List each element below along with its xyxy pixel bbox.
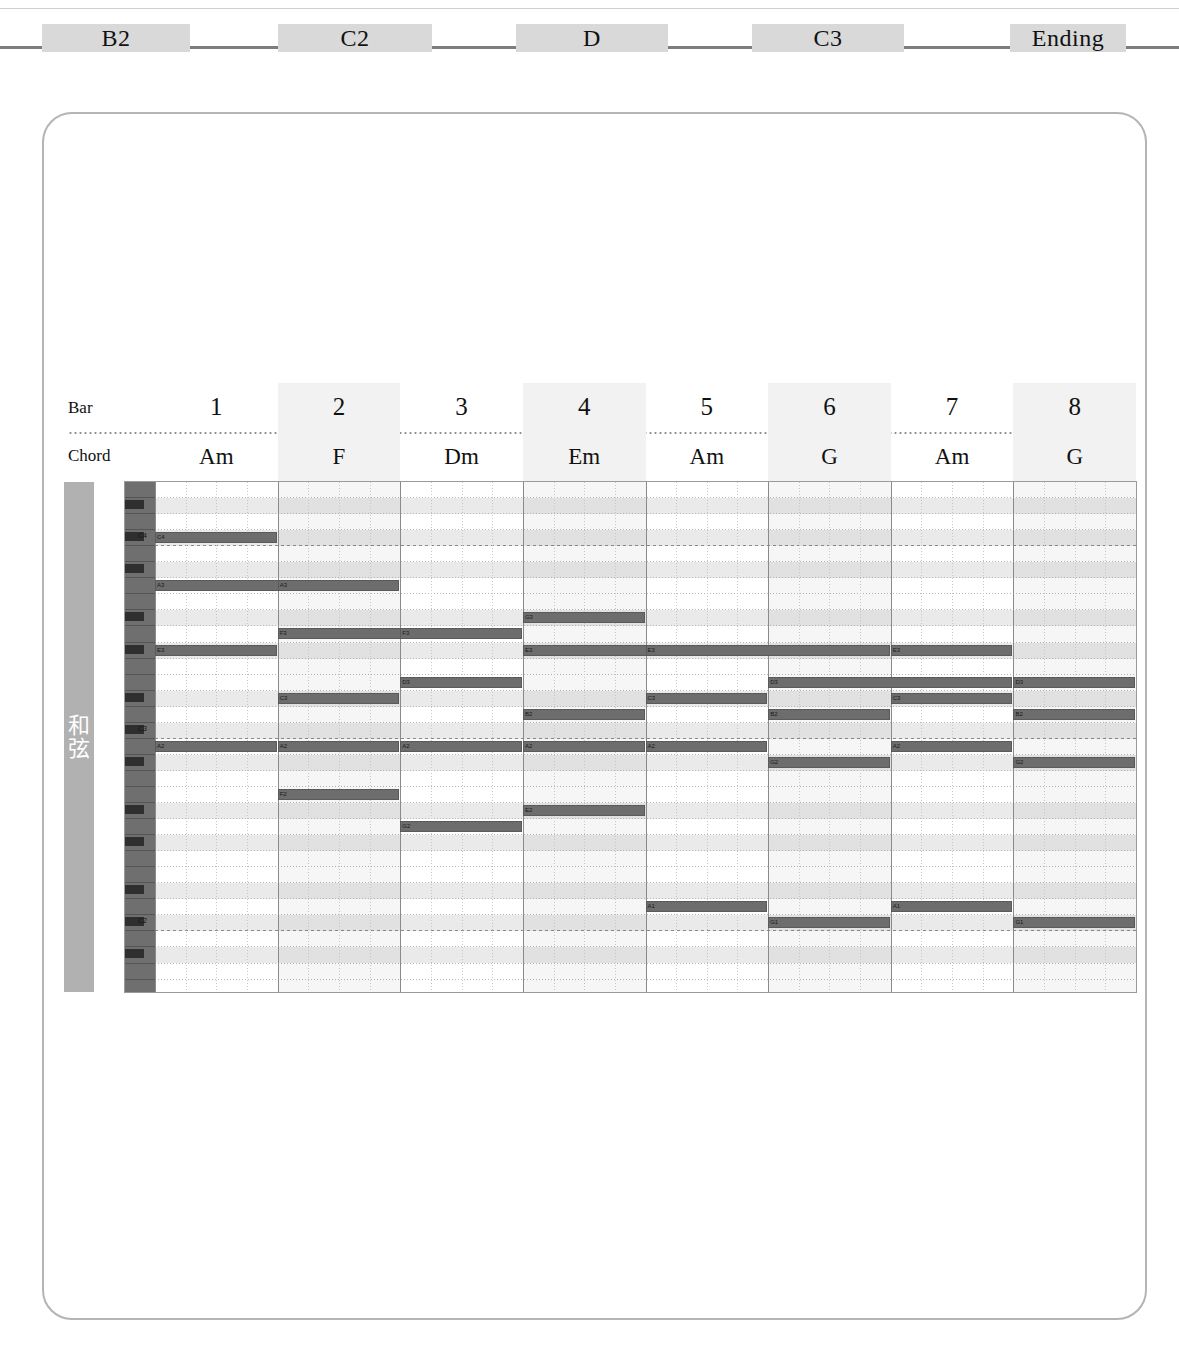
grid-beat-line (921, 482, 922, 992)
section-nav-item-c3[interactable]: C3 (752, 24, 904, 52)
key-separator (125, 513, 155, 514)
note-block[interactable]: G2 (768, 757, 890, 768)
note-block[interactable]: A1 (891, 901, 1013, 912)
note-block[interactable]: C3 (278, 693, 400, 704)
note-block[interactable]: D3 (768, 677, 1012, 688)
key-separator (125, 914, 155, 915)
piano-key-black[interactable] (125, 500, 144, 509)
section-nav-item-b2[interactable]: B2 (42, 24, 190, 52)
piano-key-black[interactable] (125, 693, 144, 702)
note-label: A1 (893, 902, 900, 911)
piano-key-black[interactable] (125, 805, 144, 814)
key-separator (125, 979, 155, 980)
key-separator (125, 577, 155, 578)
key-separator (125, 930, 155, 931)
note-block[interactable]: A2 (278, 741, 400, 752)
key-separator (125, 882, 155, 883)
key-separator (125, 561, 155, 562)
grid-beat-line (462, 482, 463, 992)
key-separator (125, 625, 155, 626)
note-label: C3 (648, 694, 656, 703)
note-label: A2 (648, 742, 655, 751)
note-block[interactable]: B2 (523, 709, 645, 720)
piano-key-black[interactable] (125, 612, 144, 621)
note-label: C3 (893, 694, 901, 703)
chord-name-bar-8[interactable]: G (1013, 444, 1136, 470)
key-separator (125, 946, 155, 947)
note-block[interactable]: A3 (278, 580, 400, 591)
key-separator (125, 963, 155, 964)
note-block[interactable]: G1 (768, 917, 890, 928)
piano-key-black[interactable] (125, 645, 144, 654)
piano-key-black[interactable] (125, 757, 144, 766)
note-block[interactable]: E3 (646, 645, 890, 656)
grid-beat-line (492, 482, 493, 992)
note-block[interactable]: G1 (1013, 917, 1135, 928)
note-block[interactable]: G2 (1013, 757, 1135, 768)
note-block[interactable]: G3 (523, 612, 645, 623)
note-block[interactable]: G2 (400, 821, 522, 832)
note-block[interactable]: F2 (278, 789, 400, 800)
piano-key-black[interactable] (125, 564, 144, 573)
note-grid[interactable]: C4A3E3A2A3F3C3A2F2F3D3A2G2G3E3B2A2E2E3C3… (155, 482, 1137, 992)
note-block[interactable]: D3 (1013, 677, 1135, 688)
grid-beat-line (737, 482, 738, 992)
section-nav: B2C2DC3Ending (0, 24, 1179, 72)
note-block[interactable]: E2 (523, 805, 645, 816)
note-block[interactable]: A2 (646, 741, 768, 752)
note-block[interactable]: A2 (891, 741, 1013, 752)
note-block[interactable]: B2 (1013, 709, 1135, 720)
grid-bar-line (891, 482, 892, 992)
chord-name-bar-6[interactable]: G (768, 444, 891, 470)
note-block[interactable]: A2 (400, 741, 522, 752)
key-separator (125, 834, 155, 835)
note-block[interactable]: A2 (523, 741, 645, 752)
note-label: G2 (1015, 758, 1023, 767)
chord-name-bar-4[interactable]: Em (523, 444, 646, 470)
note-label: F3 (280, 629, 287, 638)
key-separator (125, 786, 155, 787)
chord-name-bar-3[interactable]: Dm (400, 444, 523, 470)
piano-key-black[interactable] (125, 949, 144, 958)
note-block[interactable]: C3 (646, 693, 768, 704)
chord-name-bar-2[interactable]: F (278, 444, 401, 470)
grid-beat-line (676, 482, 677, 992)
note-label: A2 (525, 742, 532, 751)
note-block[interactable]: C3 (891, 693, 1013, 704)
piano-key-black[interactable] (125, 885, 144, 894)
key-separator (125, 818, 155, 819)
note-block[interactable]: C4 (155, 532, 277, 543)
key-separator (125, 674, 155, 675)
grid-beat-line (584, 482, 585, 992)
note-block[interactable]: E3 (891, 645, 1013, 656)
section-nav-item-d[interactable]: D (516, 24, 668, 52)
note-label: D3 (402, 678, 410, 687)
piano-roll[interactable]: C4A3E3A2A3F3C3A2F2F3D3A2G2G3E3B2A2E2E3C3… (124, 481, 1137, 993)
note-label: A1 (648, 902, 655, 911)
note-label: D3 (1015, 678, 1023, 687)
bar-number-8: 8 (1013, 394, 1136, 420)
section-nav-item-c2[interactable]: C2 (278, 24, 432, 52)
chord-name-bar-1[interactable]: Am (155, 444, 278, 470)
section-nav-item-ending[interactable]: Ending (1010, 24, 1126, 52)
note-block[interactable]: A2 (155, 741, 277, 752)
key-label-c4: C4 (138, 532, 154, 540)
note-block[interactable]: B2 (768, 709, 890, 720)
note-label: G1 (1015, 918, 1023, 927)
piano-key-black[interactable] (125, 837, 144, 846)
grid-beat-line (370, 482, 371, 992)
chord-name-bar-5[interactable]: Am (646, 444, 769, 470)
note-block[interactable]: D3 (400, 677, 522, 688)
grid-beat-line (186, 482, 187, 992)
note-label: B2 (525, 710, 532, 719)
grid-beat-line (339, 482, 340, 992)
note-block[interactable]: E3 (155, 645, 277, 656)
note-block[interactable]: F3 (400, 628, 522, 639)
note-label: E3 (525, 646, 532, 655)
key-separator (125, 802, 155, 803)
chord-name-bar-7[interactable]: Am (891, 444, 1014, 470)
grid-beat-line (983, 482, 984, 992)
piano-keyboard[interactable] (125, 482, 155, 992)
note-block[interactable]: A1 (646, 901, 768, 912)
note-label: G3 (525, 613, 533, 622)
